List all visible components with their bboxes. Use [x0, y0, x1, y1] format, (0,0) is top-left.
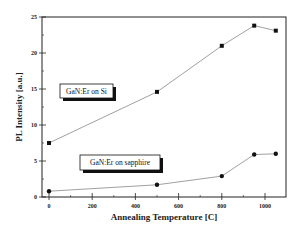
x-tick-label: 0 [48, 203, 51, 209]
axis-ticks: 051015202502004006008001000 [31, 14, 271, 209]
y-tick-label: 15 [31, 86, 37, 92]
data-point-square [252, 24, 256, 28]
y-tick-label: 10 [31, 122, 37, 128]
series-label: GaN:Er on sapphire [90, 158, 151, 167]
x-tick-label: 800 [217, 203, 226, 209]
data-point-circle [220, 174, 224, 178]
y-tick-label: 20 [31, 50, 37, 56]
data-point-circle [155, 183, 159, 187]
x-axis-title: Annealing Temperature [C] [111, 212, 217, 222]
series-label: GaN:Er on Si [66, 87, 107, 96]
data-point-square [220, 44, 224, 48]
y-tick-label: 0 [34, 194, 37, 200]
x-tick-label: 400 [131, 203, 140, 209]
y-tick-label: 5 [34, 158, 37, 164]
line-chart: 051015202502004006008001000 GaN:Er on Si… [0, 0, 303, 229]
series-labels: GaN:Er on SiGaN:Er on sapphire [60, 84, 163, 173]
y-axis-title: PL Intensity [a.u.] [14, 72, 24, 142]
data-point-square [274, 29, 278, 33]
data-point-circle [252, 152, 256, 156]
y-tick-label: 25 [31, 14, 37, 20]
data-point-square [155, 90, 159, 94]
data-point-circle [274, 152, 278, 156]
data-point-square [47, 141, 51, 145]
x-tick-label: 1000 [259, 203, 271, 209]
x-tick-label: 200 [88, 203, 97, 209]
data-point-circle [47, 189, 51, 193]
x-tick-label: 600 [174, 203, 183, 209]
plot-frame [42, 17, 286, 197]
plot-border [42, 17, 286, 197]
